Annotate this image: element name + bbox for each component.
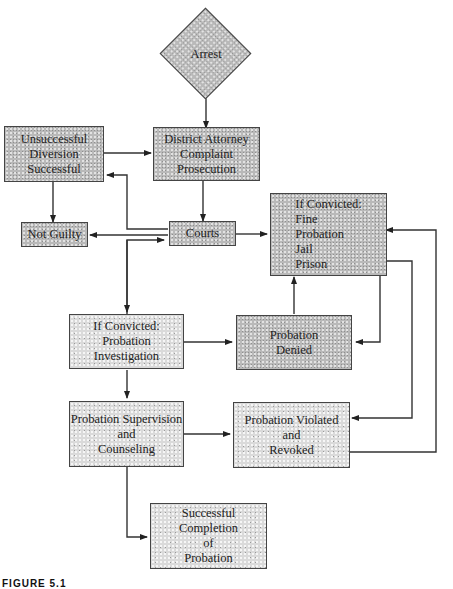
node-successful-completion: Successful Completion of Probation — [150, 503, 267, 569]
node-courts-label: Courts — [186, 226, 219, 241]
node-probation-violated-label: Probation Violated and Revoked — [245, 413, 339, 458]
node-courts: Courts — [169, 221, 236, 246]
node-not-guilty-label: Not Guilty — [28, 227, 82, 242]
node-arrest-label: Arrest — [160, 8, 252, 100]
node-arrest: Arrest — [160, 8, 252, 100]
figure-caption: FIGURE 5.1 — [2, 578, 66, 589]
node-convicted-sentence-label: If Convicted: Fine Probation Jail Prison — [295, 197, 361, 272]
node-probation-supervision-label: Probation Supervision and Counseling — [71, 412, 182, 457]
node-diversion: Unsuccessful Diversion Successful — [4, 126, 104, 182]
node-district-attorney-label: District Attorney Complaint Prosecution — [164, 132, 248, 177]
node-successful-completion-label: Successful Completion of Probation — [151, 506, 266, 566]
node-probation-investigation: If Convicted: Probation Investigation — [69, 314, 184, 369]
node-convicted-sentence: If Convicted: Fine Probation Jail Prison — [270, 193, 387, 276]
node-probation-investigation-label: If Convicted: Probation Investigation — [93, 319, 159, 364]
node-probation-denied: Probation Denied — [236, 315, 352, 370]
node-probation-supervision: Probation Supervision and Counseling — [69, 401, 184, 467]
node-diversion-label: Unsuccessful Diversion Successful — [21, 132, 88, 177]
node-probation-violated: Probation Violated and Revoked — [233, 402, 350, 468]
node-not-guilty: Not Guilty — [21, 222, 88, 247]
node-district-attorney: District Attorney Complaint Prosecution — [153, 127, 260, 181]
node-probation-denied-label: Probation Denied — [270, 328, 319, 358]
